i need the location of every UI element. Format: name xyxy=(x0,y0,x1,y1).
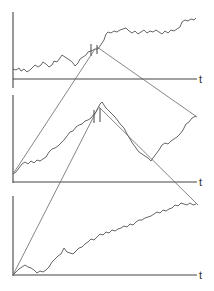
middle-t-label: t xyxy=(199,176,202,188)
connector-line xyxy=(13,49,95,174)
connector-line xyxy=(97,47,197,117)
top-walk-curve xyxy=(13,18,196,72)
panel-top: t xyxy=(13,12,202,88)
panel-middle: t xyxy=(13,95,202,188)
random-walk-diagram: t t t xyxy=(0,0,214,291)
panel-bottom: t xyxy=(13,196,202,281)
connector-line xyxy=(13,108,98,275)
bottom-walk-curve xyxy=(13,203,196,275)
bottom-t-label: t xyxy=(199,269,202,281)
connector-line xyxy=(99,107,198,205)
top-t-label: t xyxy=(199,73,202,85)
